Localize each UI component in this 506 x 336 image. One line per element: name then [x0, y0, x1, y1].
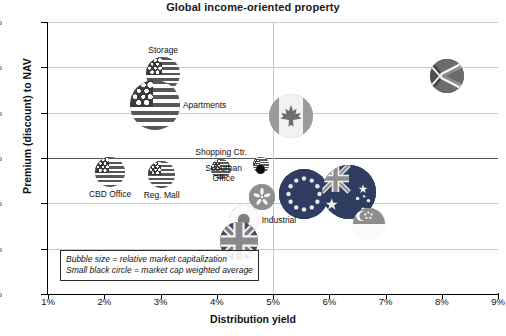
- bubble-label: CBD Office: [89, 189, 131, 199]
- flag-us-icon: [95, 157, 125, 187]
- x-tick-mark: [273, 294, 274, 299]
- x-tick-mark: [104, 294, 105, 299]
- flag-us-icon: [148, 161, 175, 188]
- flag-sg-icon: [353, 208, 385, 240]
- x-tick-mark: [386, 294, 387, 299]
- bubble-label: Shopping Ctr.: [195, 147, 247, 157]
- flag-za-icon: [430, 59, 464, 93]
- y-tick-label: 30%: [0, 17, 2, 27]
- y-tick-label: 20%: [0, 62, 2, 72]
- x-tick-mark: [217, 294, 218, 299]
- y-tick-label: -10%: [0, 198, 2, 208]
- gridline-x-5: [273, 22, 274, 294]
- y-tick-mark: [41, 22, 47, 23]
- chart-title: Global income-oriented property: [0, 1, 506, 13]
- flag-ca-icon: [269, 94, 313, 138]
- note-bubble-size: Bubble size = relative market capitaliza…: [66, 254, 253, 265]
- x-tick-mark: [498, 294, 499, 299]
- flag-canton: [95, 157, 109, 173]
- y-axis-label: Premium (discount) to NAV: [21, 41, 33, 211]
- y-tick-mark: [41, 294, 47, 295]
- bubble-cbd-office[interactable]: [95, 157, 125, 187]
- bubble-reg-mall[interactable]: [148, 161, 175, 188]
- note-black-circle: Small black circle = market cap weighted…: [66, 265, 253, 276]
- bubble-za[interactable]: [430, 59, 464, 93]
- x-tick-mark: [442, 294, 443, 299]
- bubble-label: Reg. Mall: [144, 190, 180, 200]
- bubble-sg[interactable]: [353, 208, 385, 240]
- y-tick-label: -30%: [0, 289, 2, 299]
- y-tick-mark: [41, 249, 47, 250]
- y-tick-label: -20%: [0, 244, 2, 254]
- x-tick-label: 9%: [478, 297, 506, 307]
- flag-canton: [148, 161, 160, 176]
- flag-canton: [130, 80, 153, 107]
- x-tick-mark: [48, 294, 49, 299]
- bubble-label: Suburban Office: [198, 163, 250, 183]
- x-axis-label: Distribution yield: [0, 313, 506, 325]
- bubble-label: Apartments: [183, 100, 226, 110]
- chart-container: Global income-oriented property Premium …: [0, 0, 506, 336]
- y-tick-mark: [41, 158, 47, 159]
- bubble-ca[interactable]: [269, 94, 313, 138]
- chart-note-box: Bubble size = relative market capitaliza…: [60, 250, 259, 281]
- flag-canton: [146, 57, 162, 75]
- y-tick-mark: [41, 203, 47, 204]
- bubble-apartments[interactable]: [130, 80, 180, 130]
- market-cap-weighted-average-marker[interactable]: [257, 166, 264, 173]
- y-tick-mark: [41, 113, 47, 114]
- bubble-label: Storage: [148, 45, 178, 55]
- y-tick-label: 10%: [0, 108, 2, 118]
- y-tick-mark: [41, 67, 47, 68]
- bubble-label: Industrial: [262, 215, 297, 225]
- x-tick-mark: [161, 294, 162, 299]
- y-tick-label: 0%: [0, 153, 2, 163]
- flag-canton: [253, 157, 260, 166]
- flag-us-icon: [130, 80, 180, 130]
- x-tick-mark: [329, 294, 330, 299]
